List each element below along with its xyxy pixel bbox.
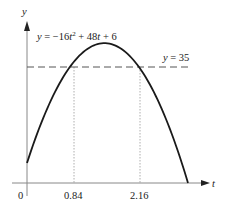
hline-label: y = 35: [162, 52, 189, 63]
tick-label-2.16: 2.16: [130, 190, 148, 201]
t-axis-label: t: [212, 178, 216, 189]
y-axis-arrow-icon: [24, 21, 30, 31]
equation-label: y = −16t2 + 48t + 6: [36, 30, 117, 42]
parabola-chart: y t 0 0.84 2.16 y = 35 y = −16t2 + 48t +…: [0, 0, 225, 203]
y-axis-label: y: [21, 6, 27, 17]
x-axis-arrow-icon: [201, 180, 210, 186]
parabola-curve: [27, 43, 188, 183]
origin-label: 0: [18, 190, 23, 201]
tick-label-0.84: 0.84: [64, 190, 83, 201]
